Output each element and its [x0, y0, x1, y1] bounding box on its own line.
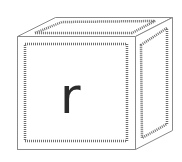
block-outline — [18, 18, 173, 150]
letter-block-illustration: r — [0, 0, 182, 162]
block-letter: r — [60, 67, 81, 125]
